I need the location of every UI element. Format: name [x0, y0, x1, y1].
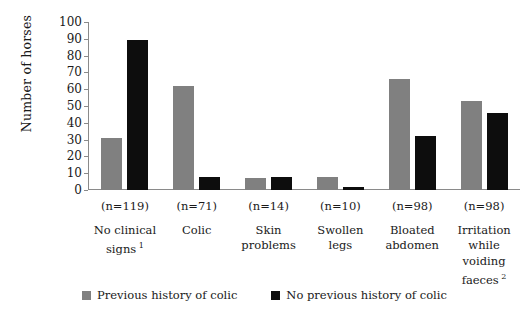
x-category-label: (n=71)Colic: [161, 191, 233, 285]
y-tick-label: 100: [48, 16, 82, 28]
y-tick-mark: [84, 89, 88, 90]
bar-group: [161, 22, 233, 190]
y-tick-label: 90: [48, 33, 82, 45]
bar: [389, 79, 410, 190]
x-axis-category-labels: (n=119)No clinicalsigns 1(n=71)Colic(n=1…: [89, 191, 520, 285]
bar: [199, 177, 220, 190]
y-axis-title: Number of horses: [19, 0, 34, 154]
y-tick-mark: [84, 72, 88, 73]
y-tick-label: 80: [48, 50, 82, 62]
y-tick-mark: [84, 140, 88, 141]
bar-group: [89, 22, 161, 190]
y-tick-label: 0: [48, 184, 82, 196]
y-tick-mark: [84, 56, 88, 57]
category-name: Colic: [161, 223, 233, 239]
footnote-marker: 2: [499, 272, 507, 281]
y-tick-label: 10: [48, 167, 82, 179]
category-count: (n=98): [448, 199, 520, 215]
category-count: (n=10): [304, 199, 376, 215]
bar-groups: [89, 22, 520, 190]
bar: [461, 101, 482, 190]
x-category-label: (n=98)Irritationwhilevoidingfaeces 2: [448, 191, 520, 285]
bar: [317, 177, 338, 190]
category-name: Swollen legs: [304, 223, 376, 254]
footnote-marker: 1: [136, 241, 144, 250]
legend-label: No previous history of colic: [286, 288, 447, 302]
bar-group: [376, 22, 448, 190]
x-category-label: (n=98)Bloatedabdomen: [376, 191, 448, 285]
category-count: (n=98): [376, 199, 448, 215]
legend-label: Previous history of colic: [97, 288, 237, 302]
bar-group: [304, 22, 376, 190]
legend-item: No previous history of colic: [271, 288, 447, 302]
category-count: (n=119): [89, 199, 161, 215]
y-tick-mark: [84, 106, 88, 107]
bar: [415, 136, 436, 190]
bar-group: [233, 22, 305, 190]
x-category-label: (n=10)Swollen legs: [304, 191, 376, 285]
y-tick-label: 50: [48, 100, 82, 112]
y-tick-mark: [84, 123, 88, 124]
category-name: Skinproblems: [233, 223, 305, 254]
y-tick-mark: [84, 156, 88, 157]
y-tick-label: 60: [48, 83, 82, 95]
category-count: (n=14): [233, 199, 305, 215]
y-tick-mark: [84, 22, 88, 23]
legend-swatch: [271, 291, 280, 300]
x-category-label: (n=14)Skinproblems: [233, 191, 305, 285]
x-category-label: (n=119)No clinicalsigns 1: [89, 191, 161, 285]
plot-area: 1009080706050403020100: [88, 22, 520, 190]
y-tick-label: 30: [48, 134, 82, 146]
bar: [271, 177, 292, 190]
y-tick-mark: [84, 173, 88, 174]
category-count: (n=71): [161, 199, 233, 215]
y-tick-label: 70: [48, 66, 82, 78]
bar: [101, 138, 122, 190]
category-name: Bloatedabdomen: [376, 223, 448, 254]
bar: [245, 178, 266, 190]
y-tick-mark: [84, 39, 88, 40]
bar: [487, 113, 508, 190]
bar: [343, 187, 364, 190]
bar: [127, 40, 148, 190]
y-tick-label: 20: [48, 150, 82, 162]
bar-group: [448, 22, 520, 190]
legend-item: Previous history of colic: [82, 288, 237, 302]
category-name: Irritationwhilevoidingfaeces 2: [448, 223, 520, 289]
chart-legend: Previous history of colicNo previous his…: [0, 288, 529, 302]
category-name: No clinicalsigns 1: [89, 223, 161, 258]
y-tick-mark: [84, 190, 88, 191]
bar: [173, 86, 194, 190]
y-tick-label: 40: [48, 117, 82, 129]
legend-swatch: [82, 291, 91, 300]
bar-chart: Number of horses 1009080706050403020100 …: [0, 0, 529, 313]
